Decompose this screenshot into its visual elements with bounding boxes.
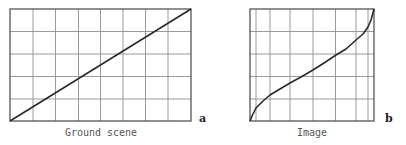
- panel-b-frame: [250, 9, 374, 121]
- panel-a-letter: a: [199, 112, 206, 125]
- panel-b-letter: b: [385, 112, 393, 125]
- figure: Ground scene a Image b: [0, 0, 406, 145]
- panel-b-grid: [250, 9, 374, 121]
- panel-b-curve: [250, 9, 374, 121]
- panel-a-xlabel: Ground scene: [65, 127, 137, 138]
- panel-b-xlabel: Image: [297, 127, 327, 138]
